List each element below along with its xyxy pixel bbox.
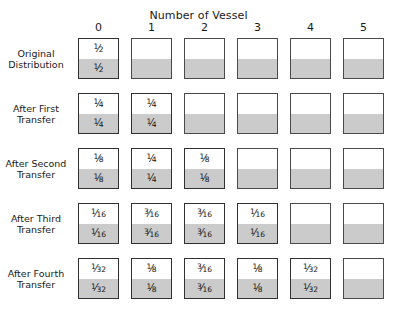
- table-row: After FourthTransfer1⁄321⁄321⁄81⁄83⁄163⁄…: [0, 258, 397, 299]
- fraction-denominator: 16: [96, 230, 106, 239]
- vessel-bottom-label: 1⁄8: [185, 169, 224, 189]
- vessel-bottom-label: 3⁄16: [185, 279, 224, 299]
- vessel-fill: [344, 279, 383, 299]
- vessel-cell: 3⁄163⁄16: [184, 258, 225, 299]
- vessel-top-label: 1⁄8: [238, 259, 277, 279]
- vessel-fill: [238, 114, 277, 134]
- row-label-line: After Fourth: [0, 267, 72, 279]
- fraction-denominator: 8: [152, 285, 157, 294]
- fraction-denominator: 8: [258, 285, 263, 294]
- fraction-denominator: 16: [149, 230, 159, 239]
- row-label-line: After First: [0, 102, 72, 114]
- vessel-cell: 1⁄321⁄32: [78, 258, 119, 299]
- vessel-fill: [344, 59, 383, 79]
- vessel-top-label: 1⁄4: [132, 94, 171, 114]
- vessel-cell: [343, 148, 384, 189]
- vessel-cell: [290, 38, 331, 79]
- fraction-denominator: 2: [99, 65, 104, 74]
- vessel-top-label: 3⁄16: [185, 259, 224, 279]
- vessel-fill: [344, 114, 383, 134]
- vessel-top-label: 1⁄8: [185, 149, 224, 169]
- fraction-denominator: 32: [308, 285, 318, 294]
- vessel-cell: [343, 203, 384, 244]
- vessel-bottom-label: 3⁄16: [185, 224, 224, 244]
- vessel-top-label: 1⁄2: [79, 39, 118, 59]
- vessel-cell: 3⁄163⁄16: [184, 203, 225, 244]
- vessel-top-label: 1⁄32: [79, 259, 118, 279]
- vessel-bottom-label: 1⁄4: [132, 169, 171, 189]
- fraction-denominator: 16: [96, 211, 106, 220]
- vessel-fill: [185, 59, 224, 79]
- vessel-top-label: 1⁄4: [132, 149, 171, 169]
- vessel-bottom-label: 1⁄16: [238, 224, 277, 244]
- vessel-grid: OriginalDistribution1⁄21⁄2After FirstTra…: [0, 0, 397, 311]
- vessel-top-label: 3⁄16: [132, 204, 171, 224]
- vessel-cell: [290, 203, 331, 244]
- vessel-bottom-label: 1⁄2: [79, 59, 118, 79]
- vessel-top-label: 1⁄8: [132, 259, 171, 279]
- table-row: After ThirdTransfer1⁄161⁄163⁄163⁄163⁄163…: [0, 203, 397, 244]
- fraction-denominator: 16: [255, 211, 265, 220]
- vessel-top-label: 1⁄4: [79, 94, 118, 114]
- row-label-line: After Third: [0, 212, 72, 224]
- row-label-line: Transfer: [0, 169, 72, 181]
- vessel-cell: 1⁄21⁄2: [78, 38, 119, 79]
- fraction-denominator: 16: [202, 285, 212, 294]
- vessel-cell: [343, 93, 384, 134]
- vessel-cell: [184, 38, 225, 79]
- fraction-denominator: 32: [96, 266, 106, 275]
- vessel-fill: [238, 169, 277, 189]
- table-row: After FirstTransfer1⁄41⁄41⁄41⁄4: [0, 93, 397, 134]
- vessel-cell: [290, 93, 331, 134]
- vessel-bottom-label: 1⁄8: [79, 169, 118, 189]
- row-label: After ThirdTransfer: [0, 212, 72, 235]
- vessel-distribution-figure: Number of Vessel 012345 OriginalDistribu…: [0, 0, 397, 311]
- vessel-cell: 1⁄41⁄4: [131, 93, 172, 134]
- vessel-bottom-label: 1⁄16: [79, 224, 118, 244]
- fraction-denominator: 8: [258, 266, 263, 275]
- vessel-top-label: 3⁄16: [185, 204, 224, 224]
- vessel-top-label: 1⁄32: [291, 259, 330, 279]
- row-label: After FourthTransfer: [0, 267, 72, 290]
- fraction-denominator: 16: [255, 230, 265, 239]
- row-label-line: Transfer: [0, 279, 72, 291]
- vessel-cell: [237, 38, 278, 79]
- vessel-bottom-label: 1⁄8: [132, 279, 171, 299]
- vessel-bottom-label: 1⁄4: [79, 114, 118, 134]
- vessel-cell: [290, 148, 331, 189]
- fraction-denominator: 16: [202, 266, 212, 275]
- fraction-denominator: 8: [99, 175, 104, 184]
- vessel-cell: 1⁄81⁄8: [131, 258, 172, 299]
- vessel-bottom-label: 1⁄8: [238, 279, 277, 299]
- vessel-cell: 1⁄81⁄8: [184, 148, 225, 189]
- vessel-fill: [291, 169, 330, 189]
- vessel-fill: [185, 114, 224, 134]
- fraction-denominator: 4: [152, 120, 157, 129]
- fraction-denominator: 8: [205, 156, 210, 165]
- row-label-line: Transfer: [0, 114, 72, 126]
- vessel-cell: 1⁄41⁄4: [131, 148, 172, 189]
- vessel-bottom-label: 1⁄4: [132, 114, 171, 134]
- row-label: After FirstTransfer: [0, 102, 72, 125]
- row-label-line: Original: [0, 47, 72, 59]
- vessel-top-label: 1⁄16: [238, 204, 277, 224]
- vessel-fill: [132, 59, 171, 79]
- vessel-fill: [291, 224, 330, 244]
- vessel-cell: 1⁄41⁄4: [78, 93, 119, 134]
- vessel-bottom-label: 1⁄32: [79, 279, 118, 299]
- vessel-bottom-label: 1⁄32: [291, 279, 330, 299]
- table-row: OriginalDistribution1⁄21⁄2: [0, 38, 397, 79]
- table-row: After SecondTransfer1⁄81⁄81⁄41⁄41⁄81⁄8: [0, 148, 397, 189]
- vessel-cell: [343, 38, 384, 79]
- vessel-fill: [291, 59, 330, 79]
- vessel-top-label: 1⁄8: [79, 149, 118, 169]
- fraction-denominator: 4: [152, 101, 157, 110]
- fraction-denominator: 4: [99, 120, 104, 129]
- fraction-denominator: 16: [149, 211, 159, 220]
- row-label: OriginalDistribution: [0, 47, 72, 70]
- fraction-denominator: 4: [99, 101, 104, 110]
- fraction-denominator: 8: [152, 266, 157, 275]
- row-label-line: Transfer: [0, 224, 72, 236]
- vessel-cell: [343, 258, 384, 299]
- fraction-denominator: 8: [205, 175, 210, 184]
